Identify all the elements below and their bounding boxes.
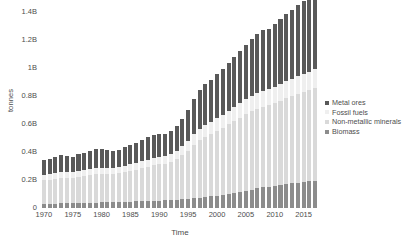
bar-segment <box>273 103 277 186</box>
bar-segment <box>71 157 75 173</box>
bar-2006 <box>250 39 254 208</box>
bar-segment <box>140 201 144 208</box>
bar-segment <box>203 125 207 137</box>
bar-segment <box>302 74 306 92</box>
bar-2017 <box>313 0 317 208</box>
y-axis-tick-label: 0.4B <box>3 148 37 156</box>
bar-segment <box>278 84 282 101</box>
bar-2000 <box>215 74 219 208</box>
bar-1999 <box>209 79 213 208</box>
bar-segment <box>180 199 184 208</box>
bar-1977 <box>82 153 86 208</box>
bar-segment <box>198 90 202 129</box>
bar-segment <box>180 155 184 199</box>
bar-segment <box>163 200 167 208</box>
bar-segment <box>88 151 92 169</box>
bar-segment <box>296 94 300 183</box>
bar-segment <box>117 173 121 202</box>
legend-swatch-icon <box>325 110 329 114</box>
bar-segment <box>157 157 161 165</box>
bar-segment <box>284 81 288 98</box>
bar-segment <box>232 193 236 208</box>
bar-segment <box>134 201 138 208</box>
bar-segment <box>261 187 265 208</box>
bar-1984 <box>123 147 127 208</box>
bar-segment <box>255 93 259 109</box>
bar-segment <box>273 24 277 87</box>
bar-segment <box>82 203 86 208</box>
plot-area <box>41 12 318 208</box>
bar-segment <box>59 203 63 208</box>
bar-segment <box>117 150 121 167</box>
bar-segment <box>65 156 69 173</box>
bar-segment <box>175 126 179 151</box>
bar-segment <box>296 5 300 76</box>
bar-1997 <box>198 90 202 208</box>
bar-segment <box>59 155 63 172</box>
bar-segment <box>53 157 57 173</box>
bar-segment <box>186 199 190 208</box>
bar-segment <box>209 122 213 134</box>
legend-item[interactable]: Biomass <box>325 127 420 137</box>
bar-2007 <box>255 34 259 208</box>
legend-item[interactable]: Fossil fuels <box>325 108 420 118</box>
bar-segment <box>128 145 132 165</box>
bar-1972 <box>53 157 57 208</box>
bar-segment <box>134 163 138 170</box>
legend-label: Metal ores <box>332 98 366 107</box>
x-axis-ticks: 1970197519801985199019952000200520102015 <box>0 210 420 224</box>
bar-segment <box>105 174 109 202</box>
bar-2005 <box>244 44 248 208</box>
bar-segment <box>302 1 306 74</box>
bar-1980 <box>100 149 104 208</box>
bar-segment <box>244 191 248 208</box>
bar-segment <box>175 151 179 159</box>
chart-container: tonnes 00.2B0.4B0.6B0.8B1B1.2B1.4B 19701… <box>0 0 420 246</box>
bar-segment <box>100 174 104 203</box>
bar-segment <box>163 156 167 164</box>
bar-segment <box>250 96 254 111</box>
bar-1994 <box>180 119 184 208</box>
legend-item[interactable]: Metal ores <box>325 98 420 108</box>
bar-2008 <box>261 30 265 209</box>
bar-segment <box>227 63 231 111</box>
bar-2011 <box>278 19 282 208</box>
bar-segment <box>221 115 225 128</box>
bar-segment <box>192 198 196 208</box>
bar-segment <box>261 91 265 107</box>
bar-segment <box>152 135 156 158</box>
bar-segment <box>192 145 196 198</box>
bar-segment <box>267 187 271 208</box>
bar-1985 <box>128 145 132 208</box>
bar-segment <box>215 196 219 208</box>
bar-1981 <box>105 150 109 208</box>
bar-segment <box>278 185 282 208</box>
bar-segment <box>267 29 271 89</box>
bar-1979 <box>94 149 98 208</box>
bar-segment <box>152 165 156 200</box>
bar-segment <box>209 134 213 197</box>
bar-segment <box>65 203 69 208</box>
bar-segment <box>221 128 225 195</box>
bar-2009 <box>267 29 271 208</box>
bar-segment <box>255 188 259 208</box>
bar-segment <box>123 172 127 202</box>
bar-segment <box>157 164 161 200</box>
bar-segment <box>215 74 219 118</box>
bar-segment <box>140 161 144 168</box>
bar-segment <box>296 183 300 208</box>
bar-segment <box>180 119 184 146</box>
bar-segment <box>48 180 52 204</box>
bar-segment <box>152 158 156 165</box>
bar-segment <box>232 107 236 121</box>
bar-2001 <box>221 69 225 208</box>
bar-segment <box>209 80 213 122</box>
bar-segment <box>221 195 225 208</box>
bar-segment <box>255 109 259 189</box>
bar-segment <box>88 175 92 203</box>
bar-segment <box>169 154 173 162</box>
bar-segment <box>175 200 179 208</box>
bar-segment <box>238 118 242 192</box>
legend-item[interactable]: Non-metallic minerals <box>325 117 420 127</box>
bar-segment <box>48 204 52 208</box>
